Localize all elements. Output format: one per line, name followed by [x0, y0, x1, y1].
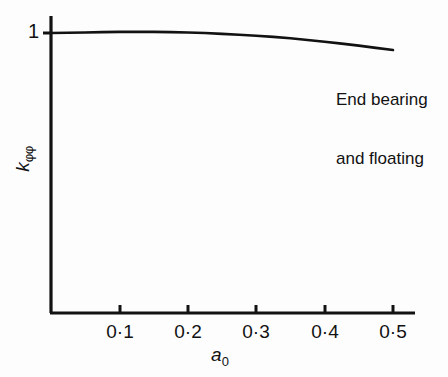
x-axis-tick-label-0.1: 0·1 [93, 322, 147, 341]
y-axis-title-base: k [12, 162, 33, 172]
chart-figure: 1 kφφ 0·1 0·2 0·3 0·4 0·5 a0 End bearing… [0, 0, 448, 377]
y-axis-title-subscript: φφ [21, 146, 36, 162]
curve-annotation-line-1: End bearing [336, 90, 428, 110]
y-axis-tick-label-1: 1 [28, 21, 39, 41]
x-axis-title-subscript: 0 [222, 354, 229, 369]
x-axis-tick-label-0.5: 0·5 [366, 322, 420, 341]
x-axis-title: a0 [193, 345, 247, 368]
x-axis-tick-label-0.4: 0·4 [298, 322, 352, 341]
x-axis-title-base: a [211, 344, 222, 365]
curve-annotation: End bearing and floating [336, 51, 428, 207]
data-curve-end-bearing-and-floating [51, 32, 393, 50]
x-axis-tick-label-0.2: 0·2 [161, 322, 215, 341]
curve-annotation-line-2: and floating [336, 149, 428, 169]
y-axis-title: kφφ [13, 131, 35, 187]
x-axis-tick-label-0.3: 0·3 [229, 322, 283, 341]
